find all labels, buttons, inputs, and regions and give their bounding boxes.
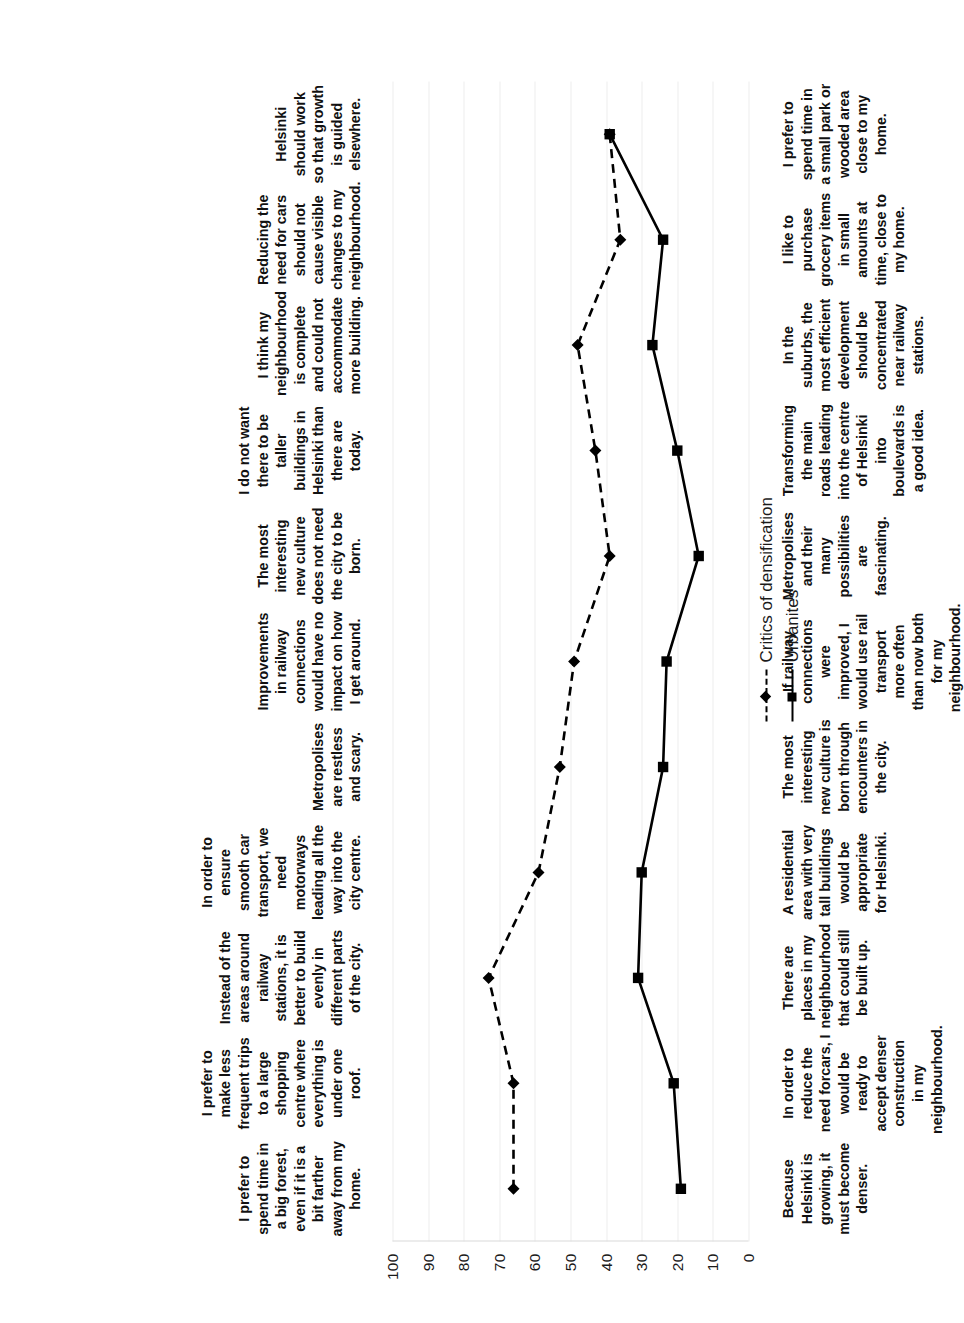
category-label-top: Instead of the areas around railway stat… — [215, 927, 364, 1028]
category-label-top: I think my neighbourhood is complete and… — [253, 294, 364, 395]
value-tick-label: 20 — [668, 1253, 686, 1293]
data-point-marker — [589, 444, 601, 456]
legend-item[interactable]: Critics of densification — [756, 497, 776, 721]
category-label-top: I prefer to spend time in a big forest, … — [234, 1138, 364, 1239]
category-label-bottom: In order to reduce the need forcars, I w… — [778, 1032, 945, 1133]
category-label-bottom: In the suburbs, the most efficient devel… — [778, 294, 927, 395]
plot-area — [392, 81, 748, 1241]
value-tick-label: 90 — [419, 1253, 437, 1293]
legend-marker — [787, 692, 796, 701]
legend-label: Critics of densification — [756, 497, 776, 662]
data-point-marker — [614, 233, 626, 245]
category-label-bottom: Transforming the main roads leading into… — [778, 399, 927, 500]
category-label-bottom: I prefer to spend time in a small park o… — [778, 83, 889, 184]
data-point-marker — [693, 550, 703, 560]
data-point-marker — [636, 867, 646, 877]
category-label-top: Helsinki should work so that growth is g… — [271, 83, 364, 184]
data-point-marker — [482, 971, 494, 983]
value-tick-label: 50 — [561, 1253, 579, 1293]
category-label-bottom: A residential area with very tall buildi… — [778, 821, 889, 922]
data-point-marker — [632, 972, 642, 982]
category-label-top: The most interesting new culture does no… — [253, 505, 364, 606]
series-layer — [392, 81, 748, 1241]
value-tick-label: 80 — [454, 1253, 472, 1293]
data-point-marker — [604, 129, 614, 139]
value-tick-label: 10 — [703, 1253, 721, 1293]
category-label-bottom: I like to purchase grocery items in smal… — [778, 188, 908, 289]
category-label-bottom: Because Helsinki is growing, it must bec… — [778, 1138, 871, 1239]
data-point-marker — [675, 1183, 685, 1193]
value-tick-label: 40 — [597, 1253, 615, 1293]
data-point-marker — [657, 234, 667, 244]
value-tick-label: 30 — [632, 1253, 650, 1293]
value-tick-label: 100 — [383, 1253, 401, 1293]
data-point-marker — [657, 761, 667, 771]
category-label-top: I do not want there to be taller buildin… — [234, 399, 364, 500]
data-point-marker — [668, 1078, 678, 1088]
data-point-marker — [507, 1077, 519, 1089]
legend-key-square-icon — [785, 669, 799, 721]
value-tick-label: 60 — [525, 1253, 543, 1293]
data-point-marker — [647, 339, 657, 349]
series-line-critics-of-densification — [488, 134, 620, 1189]
category-label-top: I prefer to make less frequent trips to … — [197, 1032, 364, 1133]
value-tick-label: 70 — [490, 1253, 508, 1293]
legend-item[interactable]: Urbanites — [782, 497, 802, 721]
legend-label: Urbanites — [782, 589, 802, 662]
legend-marker — [759, 690, 770, 701]
category-label-top: In order to ensure smooth car transport,… — [197, 821, 364, 922]
data-point-marker — [571, 339, 583, 351]
category-label-bottom: The most interesting new culture is born… — [778, 716, 889, 817]
series-line-urbanites — [609, 134, 698, 1189]
data-point-marker — [603, 550, 615, 562]
category-label-top: Reducing the need for cars should not ca… — [253, 188, 364, 289]
value-tick-label: 0 — [739, 1253, 757, 1293]
category-label-top: Improvements in railway connections woul… — [253, 610, 364, 711]
data-point-marker — [661, 656, 671, 666]
data-point-marker — [507, 1182, 519, 1194]
data-point-marker — [532, 866, 544, 878]
data-point-marker — [553, 761, 565, 773]
legend-key-diamond-icon — [759, 669, 773, 721]
data-point-marker — [568, 655, 580, 667]
chart-legend: Critics of densificationUrbanites — [756, 497, 808, 721]
category-label-bottom: There are places in my neighbourhood tha… — [778, 927, 871, 1028]
category-label-top: Metropolises are restless and scary. — [308, 716, 364, 817]
data-point-marker — [672, 445, 682, 455]
